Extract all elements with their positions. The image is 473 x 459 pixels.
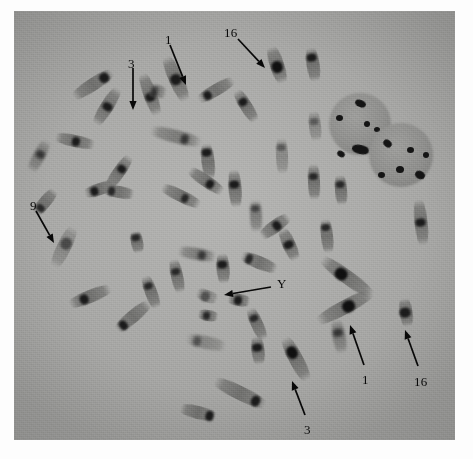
chromosome — [212, 374, 268, 411]
chromosome — [250, 336, 266, 365]
c-band — [101, 100, 114, 112]
chromosome — [276, 226, 302, 262]
heterochromatin-spot — [364, 121, 370, 127]
c-band — [180, 133, 190, 145]
arrow-head-9 — [46, 233, 54, 243]
c-band — [284, 344, 300, 361]
chromosome — [67, 282, 113, 311]
heterochromatin-spot — [378, 172, 385, 178]
chromosome — [177, 245, 217, 263]
chromosome — [26, 138, 53, 174]
chromosome — [231, 88, 260, 125]
arrow-shaft-16 — [408, 338, 418, 366]
label-9-left: 9 — [30, 199, 37, 212]
c-band — [150, 85, 159, 96]
c-band — [399, 307, 411, 318]
chromosome — [227, 292, 251, 308]
arrow-shaft-16 — [238, 39, 259, 61]
label-Y-center: Y — [277, 277, 287, 290]
c-band — [217, 261, 228, 270]
chromosome — [159, 181, 202, 210]
figure-caption — [14, 443, 455, 457]
chromosome — [304, 47, 322, 82]
arrow-head-16 — [405, 330, 412, 340]
c-band — [416, 218, 427, 227]
chromosome — [334, 175, 348, 206]
arrow-head-16 — [256, 59, 265, 68]
c-band — [333, 265, 351, 282]
c-band — [115, 163, 127, 175]
c-band — [71, 136, 81, 146]
chromosome — [307, 164, 320, 200]
chromosome — [314, 286, 375, 327]
c-band — [306, 52, 317, 61]
c-band — [89, 185, 99, 196]
label-1-bottom: 1 — [362, 373, 369, 386]
c-band — [237, 96, 249, 108]
arrow-head-3 — [129, 101, 136, 110]
c-band — [97, 71, 111, 85]
c-band — [180, 192, 190, 203]
arrow-shaft-1 — [353, 333, 364, 365]
c-band — [34, 149, 46, 160]
annotation-arrows — [14, 11, 455, 440]
label-16-bottom: 16 — [414, 375, 427, 388]
c-band — [107, 186, 115, 196]
chromosome — [48, 224, 80, 270]
chromosome — [168, 258, 187, 294]
chromosome — [103, 183, 135, 200]
chromosome — [197, 308, 219, 322]
c-band — [143, 281, 154, 291]
chromosome — [239, 249, 279, 275]
c-band — [283, 239, 295, 250]
c-band — [251, 205, 260, 212]
c-band — [252, 343, 263, 352]
c-band — [197, 250, 206, 260]
chromosome — [129, 230, 145, 254]
label-1-top: 1 — [165, 33, 172, 46]
chromosome — [149, 124, 203, 149]
chromosome — [54, 131, 96, 151]
chromosome — [185, 332, 227, 353]
chromosome — [196, 75, 237, 105]
c-band — [233, 295, 242, 305]
c-band — [204, 409, 214, 421]
c-band — [270, 59, 284, 74]
c-band — [250, 394, 263, 408]
c-band — [200, 290, 212, 302]
chromosome — [195, 287, 220, 306]
chromosome — [227, 169, 243, 208]
c-band — [78, 292, 90, 305]
arrow-shaft-3 — [295, 389, 305, 415]
c-band — [249, 313, 260, 323]
figure-page: 31169Y1163 — [0, 0, 473, 459]
chromosome — [307, 110, 322, 141]
chromosome — [330, 319, 349, 355]
micrograph-plate: 31169Y1163 — [14, 11, 455, 440]
chromosome — [249, 200, 262, 232]
c-band — [192, 335, 202, 346]
c-band — [202, 89, 213, 101]
c-band — [339, 298, 356, 315]
chromosome — [279, 335, 314, 384]
c-band — [321, 224, 331, 232]
label-3-bottom: 3 — [304, 423, 311, 436]
c-band — [131, 233, 141, 241]
c-band — [229, 180, 240, 189]
chromosome — [264, 45, 289, 85]
c-band — [171, 268, 181, 277]
heterochromatin-spot — [336, 115, 343, 121]
heterochromatin-spot — [396, 166, 404, 173]
c-band — [202, 311, 210, 320]
arrow-head-3 — [292, 381, 299, 391]
vignette-overlay — [14, 11, 455, 440]
chromosome — [90, 85, 123, 128]
chromosome — [398, 298, 415, 328]
c-band — [309, 173, 318, 180]
arrow-shaft-Y — [233, 287, 271, 293]
chromosome — [215, 253, 230, 284]
c-band — [58, 236, 73, 252]
c-band — [333, 328, 344, 338]
film-grain-overlay — [14, 11, 455, 440]
c-band — [244, 253, 254, 265]
